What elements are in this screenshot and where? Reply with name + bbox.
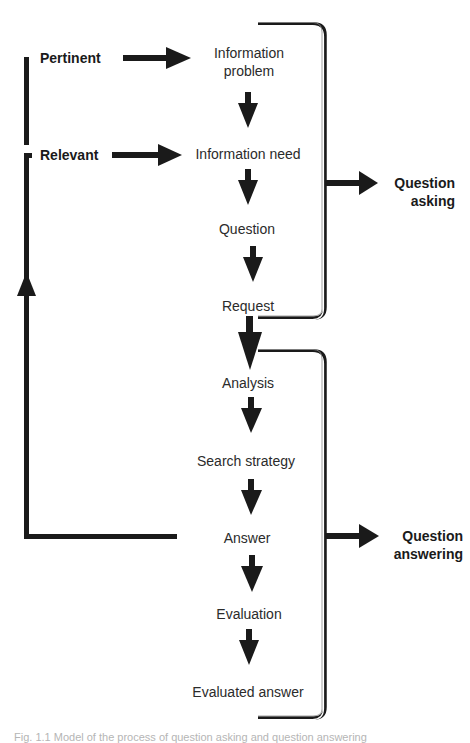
- up-arrow-icon: [17, 272, 36, 296]
- pertinent-feedback-line: [24, 57, 29, 145]
- relevant-feedback-line: [17, 153, 177, 539]
- phase-label-line1: Question: [383, 527, 463, 545]
- question-asking-arrow-icon: [326, 171, 378, 195]
- step-information-problem: Information problem: [214, 44, 284, 80]
- step-request: Request: [222, 297, 274, 315]
- step-question: Question: [219, 220, 275, 238]
- phase-label-line2: asking: [385, 192, 455, 210]
- figure-caption: Fig. 1.1 Model of the process of questio…: [14, 731, 367, 743]
- question-answering-label: Question answering: [383, 527, 463, 563]
- relevant-arrow-icon: [112, 144, 182, 166]
- step-search-strategy: Search strategy: [197, 452, 295, 470]
- question-asking-label: Question asking: [385, 174, 455, 210]
- step-answer: Answer: [224, 529, 271, 547]
- step-information-need: Information need: [195, 145, 300, 163]
- phase-label-line1: Question: [385, 174, 455, 192]
- pertinent-arrow-icon: [123, 47, 191, 69]
- step-label-line2: problem: [214, 62, 284, 80]
- step-evaluated-answer: Evaluated answer: [192, 683, 303, 701]
- pertinent-label: Pertinent: [40, 49, 101, 67]
- phase-label-line2: answering: [383, 545, 463, 563]
- step-label-line1: Information: [214, 44, 284, 62]
- step-analysis: Analysis: [222, 374, 274, 392]
- relevant-label: Relevant: [40, 146, 98, 164]
- step-evaluation: Evaluation: [216, 605, 281, 623]
- question-answering-arrow-icon: [326, 524, 379, 548]
